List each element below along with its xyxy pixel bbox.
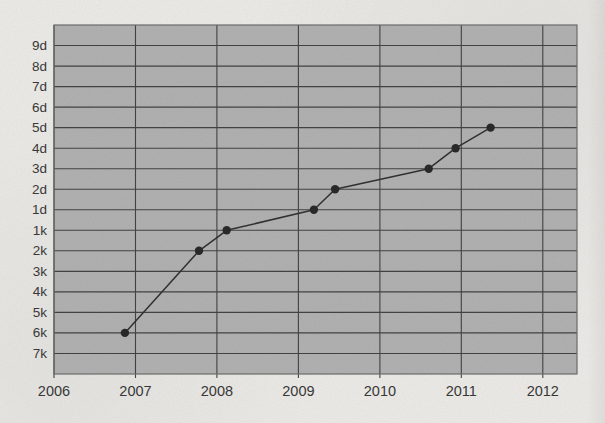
scanned-chart-page: 7k6k5k4k3k2k1k1d2d3d4d5d6d7d8d9d20062007… xyxy=(0,0,605,423)
paper-grain-overlay xyxy=(0,0,605,423)
go-rank-progress-chart: 7k6k5k4k3k2k1k1d2d3d4d5d6d7d8d9d20062007… xyxy=(0,0,605,423)
